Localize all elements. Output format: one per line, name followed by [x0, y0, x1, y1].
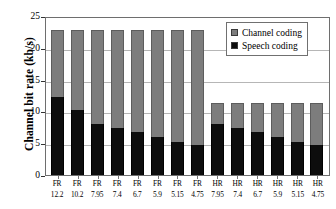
bar-segment-channel-coding: [51, 30, 64, 97]
x-tick-mark: [78, 176, 79, 179]
y-tick-mark: [41, 144, 45, 145]
bar-segment-speech-coding: [51, 97, 64, 175]
x-tick-label-mode: FR: [151, 179, 164, 189]
x-tick-label-group: HR5.9: [271, 179, 284, 207]
x-tick-label-group: FR6.7: [131, 179, 144, 207]
bar-segment-speech-coding: [171, 142, 184, 175]
bar-segment-channel-coding: [111, 30, 124, 128]
bar-segment-channel-coding: [211, 103, 224, 125]
x-tick-mark: [297, 176, 298, 179]
bar-segment-speech-coding: [91, 124, 104, 175]
chart-legend: Channel codingSpeech coding: [226, 22, 308, 56]
legend-swatch-icon: [231, 29, 238, 36]
legend-entry: Speech coding: [231, 39, 302, 52]
bar-segment-channel-coding: [91, 30, 104, 124]
bar-segment-channel-coding: [271, 103, 284, 138]
y-tick-label: 20: [18, 44, 40, 54]
x-tick-mark: [98, 176, 99, 179]
x-tick-label-rate: 7.4: [111, 190, 124, 200]
x-tick-mark: [58, 176, 59, 179]
bar-segment-speech-coding: [151, 137, 164, 175]
x-tick-mark: [277, 176, 278, 179]
x-tick-label-group: FR7.95: [91, 179, 104, 207]
x-tick-label-group: FR4.75: [191, 179, 204, 207]
bar-column: [171, 18, 184, 175]
bar-segment-speech-coding: [71, 110, 84, 175]
legend-label: Channel coding: [242, 28, 302, 38]
y-tick-label: 25: [18, 12, 40, 22]
bar-segment-channel-coding: [251, 103, 264, 133]
bar-segment-channel-coding: [171, 30, 184, 142]
x-tick-label-mode: HR: [251, 179, 264, 189]
x-tick-label-mode: FR: [111, 179, 124, 189]
legend-label: Speech coding: [242, 41, 298, 51]
bar-segment-speech-coding: [291, 142, 304, 175]
y-tick-mark: [41, 176, 45, 177]
y-tick-mark: [41, 112, 45, 113]
x-tick-label-mode: FR: [91, 179, 104, 189]
x-tick-label-rate: 5.9: [271, 190, 284, 200]
bar-segment-speech-coding: [231, 128, 244, 175]
x-tick-label-mode: HR: [231, 179, 244, 189]
x-tick-label-group: FR7.4: [111, 179, 124, 207]
x-tick-label-group: FR5.15: [171, 179, 184, 207]
x-tick-label-mode: FR: [171, 179, 184, 189]
bar-segment-speech-coding: [251, 132, 264, 175]
y-tick-label: 5: [18, 139, 40, 149]
x-tick-label-rate: 12.2: [51, 190, 64, 200]
bar-segment-speech-coding: [111, 128, 124, 175]
bar-column: [310, 18, 323, 175]
x-tick-label-rate: 7.95: [91, 190, 104, 200]
x-tick-mark: [118, 176, 119, 179]
bar-column: [111, 18, 124, 175]
x-tick-label-rate: 4.75: [311, 190, 324, 200]
x-tick-label-rate: 5.15: [291, 190, 304, 200]
y-tick-label: 0: [18, 171, 40, 181]
legend-entry: Channel coding: [231, 26, 302, 39]
x-tick-label-mode: HR: [271, 179, 284, 189]
x-tick-label-mode: HR: [211, 179, 224, 189]
bar-column: [131, 18, 144, 175]
bar-segment-speech-coding: [271, 137, 284, 175]
bar-segment-speech-coding: [191, 145, 204, 175]
x-tick-label-mode: HR: [311, 179, 324, 189]
x-tick-label-mode: HR: [291, 179, 304, 189]
x-tick-label-rate: 7.4: [231, 190, 244, 200]
bar-segment-speech-coding: [131, 132, 144, 175]
x-tick-label-mode: FR: [51, 179, 64, 189]
bar-segment-speech-coding: [211, 124, 224, 175]
x-tick-mark: [317, 176, 318, 179]
y-tick-label: 15: [18, 76, 40, 86]
bar-column: [71, 18, 84, 175]
bar-segment-channel-coding: [310, 103, 323, 145]
chart-figure: Channel bit rate (kb/s) 0510152025 Chann…: [0, 0, 336, 209]
x-tick-label-group: HR7.4: [231, 179, 244, 207]
bar-segment-speech-coding: [310, 145, 323, 175]
bar-column: [51, 18, 64, 175]
x-tick-label-group: FR5.9: [151, 179, 164, 207]
y-tick-mark: [41, 81, 45, 82]
x-tick-mark: [158, 176, 159, 179]
legend-swatch-icon: [231, 42, 238, 49]
x-tick-label-group: HR5.15: [291, 179, 304, 207]
x-tick-label-rate: 7.95: [211, 190, 224, 200]
x-tick-label-group: HR7.95: [211, 179, 224, 207]
bar-column: [211, 18, 224, 175]
x-tick-label-mode: FR: [71, 179, 84, 189]
bar-column: [151, 18, 164, 175]
x-tick-label-rate: 5.15: [171, 190, 184, 200]
x-axis-tick-labels: FR12.2FR10.2FR7.95FR7.4FR6.7FR5.9FR5.15F…: [45, 179, 330, 207]
x-tick-label-mode: FR: [131, 179, 144, 189]
bar-segment-channel-coding: [151, 30, 164, 137]
x-tick-label-rate: 4.75: [191, 190, 204, 200]
bar-segment-channel-coding: [131, 30, 144, 132]
bar-segment-channel-coding: [191, 30, 204, 145]
x-tick-label-group: FR12.2: [51, 179, 64, 207]
x-tick-mark: [138, 176, 139, 179]
x-tick-label-rate: 6.7: [251, 190, 264, 200]
y-axis-tick-labels: 0510152025: [18, 17, 40, 176]
bar-column: [191, 18, 204, 175]
x-tick-label-mode: FR: [191, 179, 204, 189]
bar-column: [91, 18, 104, 175]
x-tick-label-group: HR4.75: [311, 179, 324, 207]
